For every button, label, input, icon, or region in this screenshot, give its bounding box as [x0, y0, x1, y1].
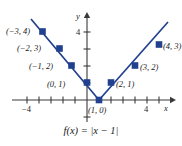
y-axis-label: y — [76, 12, 80, 21]
data-point-marker — [96, 97, 103, 104]
y-tick-label-4: 4 — [76, 28, 80, 37]
data-point-marker — [132, 62, 139, 69]
data-point-marker — [39, 28, 46, 35]
point-label-2-1: (2, 1) — [116, 80, 134, 89]
point-label-0-1: (0, 1) — [47, 80, 65, 89]
point-label-minus3-4: (−3, 4) — [6, 27, 30, 36]
point-label-3-2: (3, 2) — [140, 63, 158, 72]
point-label-minus1-2: (−1, 2) — [29, 62, 53, 71]
x-axis-arrow — [170, 97, 176, 103]
x-tick-label-minus4: −4 — [22, 105, 31, 114]
point-label-4-3: (4, 3) — [163, 42, 181, 51]
point-label-minus2-3: (−2, 3) — [17, 44, 41, 53]
x-tick-label-4: 4 — [144, 105, 148, 114]
function-equation-caption: f(x) = |x − 1| — [0, 126, 182, 137]
data-point-marker — [156, 41, 163, 48]
figure-container: (−3, 4) (−2, 3) (−1, 2) (0, 1) (1, 0) (2… — [0, 0, 182, 146]
x-axis-label: x — [164, 104, 168, 113]
point-label-1-0: (1, 0) — [88, 106, 106, 115]
y-axis-arrow — [84, 12, 90, 18]
data-point-marker — [68, 62, 75, 69]
data-point-marker — [108, 79, 115, 86]
data-point-marker — [84, 79, 91, 86]
data-point-marker — [56, 45, 63, 52]
